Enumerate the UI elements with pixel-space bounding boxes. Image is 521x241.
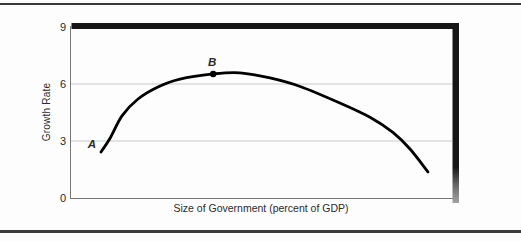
point-b-marker — [210, 71, 216, 77]
frame-top-bar — [72, 23, 460, 29]
y-axis-title: Growth Rate — [41, 83, 52, 141]
curve-markers — [210, 71, 216, 77]
x-axis-title: Size of Government (percent of GDP) — [70, 202, 452, 214]
bottom-rule — [0, 230, 521, 233]
frame-right-bar — [453, 23, 460, 203]
economics-figure: 0369 Growth Rate Size of Government (per… — [0, 0, 521, 241]
y-tick-label: 9 — [42, 22, 66, 33]
point-a-label: A — [88, 138, 96, 150]
point-b-label: B — [208, 56, 216, 68]
y-tick-label: 0 — [42, 193, 66, 204]
growth-curve — [101, 73, 428, 172]
